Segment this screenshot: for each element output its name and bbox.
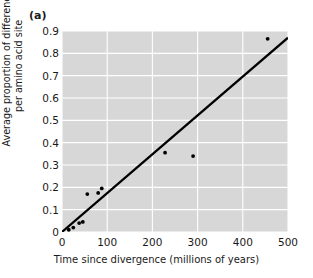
y-axis-title-line-2: per amino acid site xyxy=(13,0,25,166)
trend-line xyxy=(62,38,288,232)
data-point-8 xyxy=(191,154,195,158)
data-point-5 xyxy=(96,191,100,195)
data-point-2 xyxy=(77,221,81,225)
y-tick-label-2: 0.2 xyxy=(2,182,59,192)
x-axis-title: Time since divergence (millions of years… xyxy=(0,254,313,266)
x-tick-label-4: 400 xyxy=(223,236,263,248)
y-tick-label-1: 0.1 xyxy=(2,205,59,215)
y-axis-title-line-1: Average proportion of differences xyxy=(1,0,13,166)
data-point-6 xyxy=(100,187,104,191)
data-point-7 xyxy=(163,151,167,155)
data-point-4 xyxy=(85,192,89,196)
x-tick-label-0: 0 xyxy=(42,236,82,248)
x-tick-label-3: 300 xyxy=(178,236,218,248)
x-tick-label-1: 100 xyxy=(87,236,127,248)
plot-canvas xyxy=(62,31,288,232)
data-point-0 xyxy=(67,228,71,232)
x-tick-label-5: 500 xyxy=(268,236,308,248)
x-tick-label-2: 200 xyxy=(132,236,172,248)
y-axis-title: Average proportion of differences per am… xyxy=(1,0,35,166)
data-point-9 xyxy=(266,37,270,41)
data-point-1 xyxy=(71,226,75,230)
data-point-3 xyxy=(81,220,85,224)
figure-panel-a: (a) 00.10.20.30.40.50.60.70.80.9 Average… xyxy=(0,0,313,278)
regression-line xyxy=(62,38,288,232)
plot-area xyxy=(62,31,288,232)
x-axis-tick-labels: 0100200300400500 xyxy=(0,236,313,250)
